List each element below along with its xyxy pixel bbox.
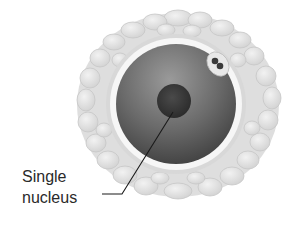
nucleus (157, 84, 191, 118)
nucleus-label-line1: Single (22, 167, 66, 186)
egg-cell-diagram: Single nucleus (0, 0, 293, 231)
nucleus-label-line2: nucleus (22, 188, 77, 207)
